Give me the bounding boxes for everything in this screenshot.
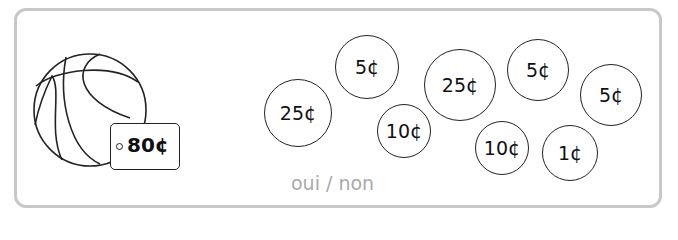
coin[interactable]: 25¢ bbox=[424, 49, 496, 121]
coin[interactable]: 10¢ bbox=[377, 104, 431, 158]
coin[interactable]: 1¢ bbox=[542, 125, 598, 181]
coin-label: 10¢ bbox=[386, 120, 422, 142]
coin-label: 5¢ bbox=[599, 84, 623, 106]
coin-label: 25¢ bbox=[442, 74, 478, 96]
coin[interactable]: 10¢ bbox=[475, 121, 529, 175]
coin-label: 5¢ bbox=[355, 56, 379, 78]
coin[interactable]: 5¢ bbox=[507, 39, 569, 101]
coin-label: 25¢ bbox=[280, 102, 316, 124]
coin-label: 10¢ bbox=[484, 137, 520, 159]
price-label: 80¢ bbox=[127, 133, 169, 157]
coin[interactable]: 5¢ bbox=[335, 35, 399, 99]
yes-no-answer[interactable]: oui / non bbox=[291, 172, 374, 194]
coin[interactable]: 25¢ bbox=[264, 79, 332, 147]
tag-hole-icon bbox=[116, 143, 123, 150]
coin-label: 5¢ bbox=[526, 59, 550, 81]
coin[interactable]: 5¢ bbox=[580, 64, 642, 126]
price-tag: 80¢ bbox=[110, 123, 180, 170]
coin-label: 1¢ bbox=[558, 142, 582, 164]
